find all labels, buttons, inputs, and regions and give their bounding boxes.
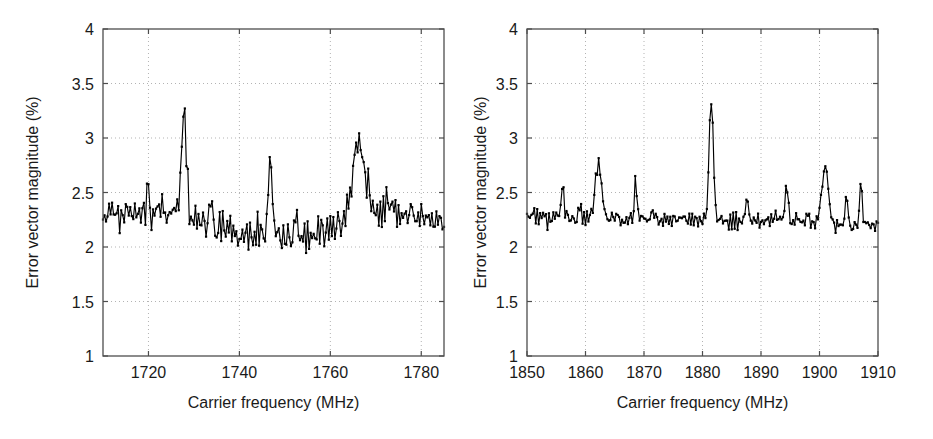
data-point-marker: [659, 220, 661, 222]
series-markers: [102, 107, 445, 254]
data-point-marker: [794, 224, 796, 226]
data-point-marker: [684, 216, 686, 218]
data-point-marker: [631, 222, 633, 224]
ytick-label: 1.5: [496, 294, 518, 311]
data-point-marker: [393, 210, 395, 212]
data-point-marker: [404, 213, 406, 215]
data-point-marker: [821, 186, 823, 188]
data-point-marker: [116, 212, 118, 214]
data-point-marker: [815, 215, 817, 217]
data-point-marker: [181, 146, 183, 148]
data-point-marker: [228, 231, 230, 233]
data-point-marker: [310, 232, 312, 234]
data-point-marker: [810, 227, 812, 229]
data-point-marker: [868, 224, 870, 226]
data-point-marker: [275, 235, 277, 237]
data-point-marker: [735, 211, 737, 213]
data-point-marker: [267, 194, 269, 196]
data-point-marker: [379, 201, 381, 203]
data-point-marker: [581, 223, 583, 225]
chart-panel-right: 11.522.533.54185018601870188018901900191…: [466, 0, 933, 439]
data-point-marker: [788, 202, 790, 204]
data-point-marker: [225, 236, 227, 238]
data-point-marker: [620, 224, 622, 226]
data-point-marker: [399, 223, 401, 225]
data-point-marker: [279, 239, 281, 241]
data-point-marker: [344, 225, 346, 227]
data-point-marker: [316, 238, 318, 240]
data-point-marker: [775, 210, 777, 212]
data-point-marker: [210, 205, 212, 207]
data-point-marker: [325, 231, 327, 233]
data-point-marker: [804, 224, 806, 226]
xtick-label: 1850: [509, 364, 545, 381]
data-point-marker: [609, 219, 611, 221]
data-point-marker: [773, 218, 775, 220]
data-point-marker: [150, 229, 152, 231]
data-point-marker: [551, 220, 553, 222]
data-point-marker: [129, 206, 131, 208]
data-point-marker: [290, 245, 292, 247]
data-point-marker: [428, 214, 430, 216]
data-point-marker: [529, 217, 531, 219]
data-point-marker: [203, 220, 205, 222]
data-point-marker: [814, 227, 816, 229]
data-point-marker: [226, 220, 228, 222]
data-point-marker: [385, 186, 387, 188]
data-point-marker: [252, 244, 254, 246]
data-point-marker: [378, 225, 380, 227]
data-point-marker: [802, 219, 804, 221]
data-point-marker: [305, 252, 307, 254]
data-point-marker: [126, 206, 128, 208]
data-point-marker: [698, 216, 700, 218]
data-point-marker: [737, 229, 739, 231]
data-point-marker: [738, 217, 740, 219]
y-axis-title: Error vector magnitude (%): [24, 96, 41, 288]
data-point-marker: [824, 165, 826, 167]
data-point-marker: [423, 223, 425, 225]
xtick-label: 1780: [403, 364, 439, 381]
data-point-marker: [434, 226, 436, 228]
data-point-marker: [538, 223, 540, 225]
data-point-marker: [710, 103, 712, 105]
ytick-label: 2: [509, 239, 518, 256]
data-point-marker: [184, 107, 186, 109]
data-point-marker: [644, 218, 646, 220]
data-point-marker: [202, 211, 204, 213]
data-point-marker: [846, 200, 848, 202]
data-point-marker: [185, 165, 187, 167]
data-point-marker: [190, 216, 192, 218]
ytick-label: 1.5: [72, 294, 94, 311]
data-point-marker: [706, 208, 708, 210]
data-point-marker: [820, 194, 822, 196]
data-point-marker: [548, 212, 550, 214]
data-point-marker: [658, 223, 660, 225]
data-point-marker: [587, 220, 589, 222]
xtick-label: 1880: [685, 364, 721, 381]
chart-panel-left: 11.522.533.541720174017601780Carrier fre…: [0, 0, 466, 439]
data-point-marker: [369, 194, 371, 196]
data-point-marker: [842, 224, 844, 226]
data-point-marker: [285, 244, 287, 246]
data-point-marker: [234, 235, 236, 237]
data-point-marker: [767, 216, 769, 218]
data-point-marker: [813, 221, 815, 223]
data-point-marker: [560, 204, 562, 206]
data-point-marker: [135, 216, 137, 218]
data-point-marker: [832, 218, 834, 220]
data-point-marker: [235, 230, 237, 232]
data-point-marker: [387, 202, 389, 204]
data-point-marker: [249, 222, 251, 224]
data-point-marker: [700, 220, 702, 222]
data-point-marker: [691, 213, 693, 215]
y-axis-title: Error vector magnitude (%): [472, 96, 489, 288]
data-point-marker: [541, 217, 543, 219]
data-point-marker: [397, 204, 399, 206]
data-point-marker: [266, 213, 268, 215]
data-point-marker: [164, 211, 166, 213]
data-point-marker: [834, 232, 836, 234]
data-point-marker: [696, 217, 698, 219]
data-point-marker: [874, 230, 876, 232]
data-point-marker: [122, 214, 124, 216]
data-point-marker: [400, 212, 402, 214]
